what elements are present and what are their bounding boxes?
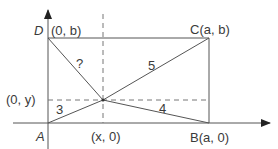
label-x-projection: (x, 0) — [91, 129, 121, 144]
label-d-letter: D — [34, 23, 43, 38]
label-y-projection: (0, y) — [6, 92, 36, 107]
length-pb: 4 — [159, 101, 166, 116]
label-c: C(a, b) — [190, 22, 230, 37]
label-a: A — [35, 129, 45, 144]
length-pc: 5 — [148, 58, 155, 73]
label-d-coord: (0, b) — [51, 23, 81, 38]
segment-pc — [103, 38, 209, 100]
rectangle-point-distance-diagram: D (0, b) C(a, b) A B(a, 0) (0, y) (x, 0)… — [0, 0, 278, 149]
segment-pb — [103, 100, 209, 123]
label-b: B(a, 0) — [190, 130, 229, 145]
length-pa: 3 — [56, 102, 63, 117]
interior-point-p — [101, 98, 104, 101]
length-pd: ? — [76, 56, 83, 71]
